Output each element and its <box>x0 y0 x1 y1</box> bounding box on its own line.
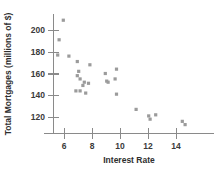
data-point <box>115 68 118 71</box>
y-tick-group: 120140160180200 <box>31 25 59 122</box>
data-point <box>74 89 77 92</box>
data-point <box>184 123 187 126</box>
data-point <box>87 82 90 85</box>
data-point <box>79 77 82 80</box>
x-tick-label: 6 <box>62 141 67 151</box>
y-tick-label: 180 <box>31 47 45 57</box>
x-tick-label: 12 <box>143 141 153 151</box>
y-axis-title: Total Mortgages (millions of $) <box>3 13 13 136</box>
data-point <box>114 77 117 80</box>
data-point <box>88 63 91 66</box>
plot-canvas: 120140160180200 68101214 Interest Rate T… <box>0 0 221 170</box>
y-tick-label: 120 <box>31 112 45 122</box>
data-point <box>83 81 86 84</box>
x-tick-label: 8 <box>90 141 95 151</box>
data-point <box>76 74 79 77</box>
data-point <box>181 120 184 123</box>
x-tick-label: 14 <box>171 141 181 151</box>
data-point <box>115 93 118 96</box>
y-tick-label: 160 <box>31 69 45 79</box>
data-point <box>149 118 152 121</box>
data-point-group <box>56 19 187 127</box>
x-axis-title: Interest Rate <box>103 155 155 165</box>
data-point <box>62 19 65 22</box>
x-tick-group: 68101214 <box>62 128 181 151</box>
data-point <box>154 113 157 116</box>
data-point <box>56 53 59 56</box>
scatter-plot-figure: 120140160180200 68101214 Interest Rate T… <box>0 0 221 170</box>
y-tick-label: 140 <box>31 90 45 100</box>
data-point <box>147 114 150 117</box>
data-point <box>79 89 82 92</box>
data-point <box>107 81 110 84</box>
data-point <box>67 55 70 58</box>
data-point <box>84 91 87 94</box>
data-point <box>135 108 138 111</box>
y-tick-label: 200 <box>31 25 45 35</box>
x-tick-label: 10 <box>115 141 125 151</box>
data-point <box>81 84 84 87</box>
data-point <box>104 72 107 75</box>
data-point <box>58 38 61 41</box>
data-point <box>77 70 80 73</box>
data-point <box>76 60 79 63</box>
